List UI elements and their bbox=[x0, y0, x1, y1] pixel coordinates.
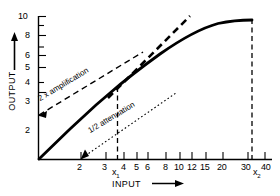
x-tick-label-10: 10 bbox=[174, 163, 184, 172]
x-tick-label-5: 5 bbox=[134, 163, 139, 172]
x1-marker-subscript: 1 bbox=[116, 173, 119, 179]
x-tick-label-20: 20 bbox=[217, 163, 227, 172]
y-tick-label-4: 4 bbox=[25, 78, 30, 87]
y-axis-title: OUTPUT bbox=[7, 67, 17, 115]
x-tick-label-2: 2 bbox=[77, 163, 82, 172]
y-tick-label-8: 8 bbox=[25, 31, 30, 40]
x-tick-label-4: 4 bbox=[121, 163, 126, 172]
y-tick-label-5: 5 bbox=[25, 63, 30, 72]
attenuation-arrow-icon bbox=[81, 150, 90, 160]
x-tick-label-40: 40 bbox=[261, 163, 271, 172]
chart-container: 10 8 6 5 4 3 2 2 3 4 5 6 8 10 12 15 20 3… bbox=[0, 0, 280, 196]
x-tick-marks bbox=[81, 152, 265, 160]
y-tick-label-10: 10 bbox=[18, 12, 28, 21]
y-tick-label-3: 3 bbox=[25, 97, 30, 106]
x-tick-label-6: 6 bbox=[145, 163, 150, 172]
x-axis-arrow-icon bbox=[152, 180, 184, 187]
x2-marker-subscript: 2 bbox=[257, 173, 260, 179]
x-tick-label-15: 15 bbox=[200, 163, 210, 172]
y-axis-arrow-icon bbox=[11, 32, 18, 70]
x2-marker-label: x2 bbox=[253, 168, 260, 181]
transfer-curve bbox=[39, 20, 252, 159]
y-tick-label-2: 2 bbox=[25, 126, 30, 135]
x-tick-label-30: 30 bbox=[241, 163, 251, 172]
x-tick-label-3: 3 bbox=[102, 163, 107, 172]
x-tick-label-12: 12 bbox=[187, 163, 197, 172]
x-tick-label-8: 8 bbox=[163, 163, 168, 172]
x-axis-title: INPUT bbox=[112, 179, 141, 189]
y-tick-label-6: 6 bbox=[25, 51, 30, 60]
